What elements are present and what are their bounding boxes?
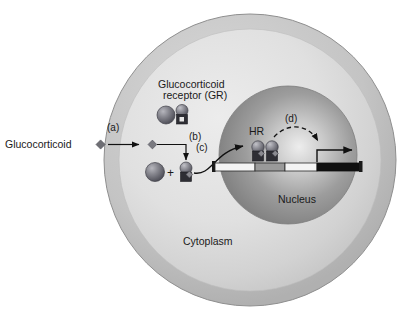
cytoplasm-label: Cytoplasm <box>183 235 233 247</box>
dna-right-cap <box>359 161 363 172</box>
gene-coding-region <box>317 163 359 171</box>
step-d-label: (d) <box>285 113 297 124</box>
hr-label: HR <box>249 125 265 137</box>
dna-segment-left <box>215 163 255 171</box>
hormone-response-element <box>255 163 285 171</box>
step-c-label: (c) <box>196 142 208 153</box>
glucocorticoid-label: Glucocorticoid <box>5 138 72 150</box>
gr-label-line2: receptor (GR) <box>163 89 227 101</box>
hsp-sphere <box>157 106 175 124</box>
step-b-label: (b) <box>189 131 201 142</box>
glucocorticoid-marker-outside <box>96 140 105 149</box>
step-a-label: (a) <box>107 122 119 133</box>
released-hsp-sphere <box>146 163 165 182</box>
dna-segment-middle <box>285 163 317 171</box>
dna-strand <box>212 161 363 172</box>
plus-sign: + <box>167 166 174 180</box>
nucleus-label: Nucleus <box>278 193 316 205</box>
glucocorticoid-signaling-diagram: Glucocorticoid (a) Glucocorticoid recept… <box>0 0 407 313</box>
receptor-binding-pocket <box>180 117 185 122</box>
